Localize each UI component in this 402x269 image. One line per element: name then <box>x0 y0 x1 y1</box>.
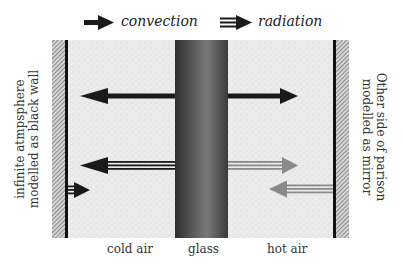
hot-air-label: hot air <box>267 243 307 255</box>
right-wall-hatch <box>336 40 349 238</box>
radiation-legend-arrow-icon <box>220 15 252 30</box>
left-wall-label-line2: modelled as black wall <box>27 70 41 208</box>
right-wall-label-line1: Other side of parison <box>374 73 388 202</box>
cold-air-label: cold air <box>107 243 153 255</box>
legend-convection-label: convection <box>121 14 198 28</box>
heat-transfer-diagram <box>0 0 402 269</box>
glass-label: glass <box>188 243 219 255</box>
right-mirror-line <box>333 40 336 238</box>
left-black-wall-line <box>65 40 68 238</box>
left-wall-hatch <box>52 40 65 238</box>
left-wall-label-line1: infinite atmpsphere <box>13 70 27 208</box>
legend-radiation-label: radiation <box>258 14 322 28</box>
right-wall-label-line2: modelled as mirror <box>360 73 374 202</box>
convection-legend-arrow-icon <box>84 15 114 30</box>
cold-air-region <box>68 40 175 238</box>
glass-column <box>175 40 228 238</box>
hot-air-region <box>228 40 333 238</box>
